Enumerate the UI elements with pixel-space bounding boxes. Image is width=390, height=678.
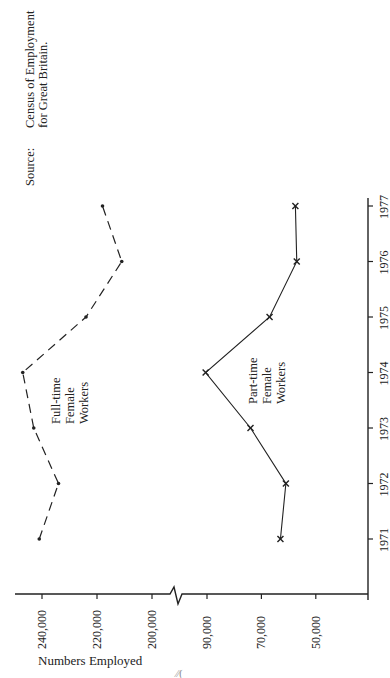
source-line-2: for Great Britain. xyxy=(36,42,50,128)
value-tick-label: 90,000 xyxy=(200,616,214,649)
full-time-label: Full-time Female Workers xyxy=(49,377,91,424)
full-time-point xyxy=(101,204,105,208)
part-time-point xyxy=(248,425,254,431)
part-time-label-line-3: Workers xyxy=(274,362,288,404)
year-ticks: 1971197219731974197519761977 xyxy=(368,195,390,552)
part-time-label-line-2: Female xyxy=(260,367,274,404)
full-time-point xyxy=(120,260,124,264)
full-time-markers xyxy=(21,204,124,541)
value-tick-label: 200,000 xyxy=(145,610,159,649)
full-time-point xyxy=(21,371,25,375)
year-tick-label: 1974 xyxy=(377,362,390,386)
year-tick-label: 1975 xyxy=(377,306,390,330)
full-time-label-line-3: Workers xyxy=(77,382,91,424)
value-tick-label: 50,000 xyxy=(309,616,323,649)
full-time-line xyxy=(23,206,122,539)
year-tick-label: 1977 xyxy=(377,195,390,219)
value-tick-label: 240,000 xyxy=(35,610,49,649)
source-note: Source: Census of Employment for Great B… xyxy=(23,10,50,186)
value-tick-label: 220,000 xyxy=(90,610,104,649)
year-tick-label: 1973 xyxy=(377,417,390,441)
full-time-point xyxy=(57,482,61,486)
part-time-label-line-1: Part-time xyxy=(246,357,260,404)
full-time-point xyxy=(84,315,88,319)
full-time-point xyxy=(32,426,36,430)
value-axis-line xyxy=(15,587,368,604)
source-label: Source: xyxy=(23,148,37,186)
value-tick-label: 70,000 xyxy=(254,616,268,649)
part-time-point xyxy=(267,314,273,320)
part-time-label: Part-time Female Workers xyxy=(246,357,288,404)
year-tick-label: 1972 xyxy=(377,473,390,497)
value-axis: 240,000220,000200,00090,00070,00050,000 … xyxy=(15,587,368,668)
series-full-time xyxy=(21,204,124,541)
source-line-1: Census of Employment xyxy=(23,10,37,128)
employment-chart: Source: Census of Employment for Great B… xyxy=(0,0,390,678)
value-axis-title: Numbers Employed xyxy=(38,653,143,668)
part-time-point xyxy=(203,370,209,376)
full-time-label-line-1: Full-time xyxy=(49,377,63,424)
year-tick-label: 1971 xyxy=(377,528,390,552)
full-time-point xyxy=(37,537,41,541)
full-time-label-line-2: Female xyxy=(63,387,77,424)
year-axis: 1971197219731974197519761977 xyxy=(368,195,390,600)
year-tick-label: 1976 xyxy=(377,251,390,275)
page-mark: ⁄⁄( xyxy=(174,668,183,678)
